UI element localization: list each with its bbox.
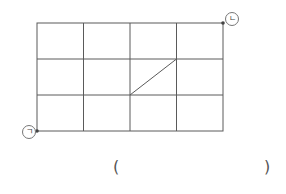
point-label-giyeok: ㄱ bbox=[22, 125, 36, 139]
point-nieun-dot bbox=[221, 21, 225, 25]
answer-close-paren: ) bbox=[264, 159, 270, 175]
diagonal-segment bbox=[130, 59, 177, 95]
point-label-nieun: ㄴ bbox=[225, 12, 239, 26]
answer-blank[interactable] bbox=[125, 158, 260, 178]
grid-lines bbox=[37, 23, 223, 131]
answer-open-paren: ( bbox=[113, 159, 119, 175]
